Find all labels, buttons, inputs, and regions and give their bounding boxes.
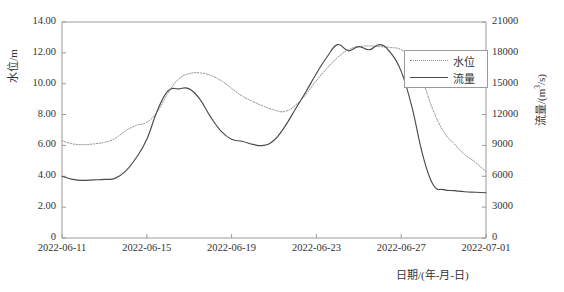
x-axis-tick-label: 2022-06-27 (356, 242, 446, 253)
x-axis-ticks (62, 234, 486, 238)
y-axis-left-tick-label: 10.00 (10, 77, 56, 88)
y-axis-left-tick-label: 0 (10, 231, 56, 242)
y-axis-right-tick-label: 15000 (492, 77, 542, 88)
legend-label-flow: 流量 (449, 70, 475, 86)
x-axis-tick-label: 2022-06-23 (271, 242, 361, 253)
legend-label-water-level: 水位 (449, 53, 475, 69)
legend-swatch-dotted (409, 57, 449, 65)
chart-legend: 水位 流量 (404, 50, 488, 88)
x-axis-tick-label: 2022-07-01 (441, 242, 531, 253)
y-axis-left-tick-label: 6.00 (10, 138, 56, 149)
legend-swatch-solid (409, 74, 449, 82)
y-axis-right-title: 流量/(m3/s) (532, 55, 548, 145)
legend-item-flow: 流量 (409, 70, 485, 86)
y-axis-left-tick-label: 14.00 (10, 15, 56, 26)
y-axis-right-tick-label: 0 (492, 231, 542, 242)
y-axis-left-tick-label: 12.00 (10, 46, 56, 57)
y-axis-right-tick-label: 9000 (492, 138, 542, 149)
x-axis-title: 日期/(年-月-日) (396, 266, 469, 282)
y-axis-left-ticks (62, 22, 66, 238)
y-axis-right-tick-label: 21000 (492, 15, 542, 26)
y-axis-right-tick-label: 3000 (492, 200, 542, 211)
y-axis-left-tick-label: 2.00 (10, 200, 56, 211)
y-axis-right-tick-label: 6000 (492, 169, 542, 180)
x-axis-tick-label: 2022-06-19 (187, 242, 277, 253)
x-axis-tick-label: 2022-06-11 (17, 242, 107, 253)
y-axis-left-tick-label: 8.00 (10, 108, 56, 119)
chart-figure: 水位/m 流量/(m3/s) 日期/(年-月-日) 02.004.006.008… (0, 0, 564, 292)
y-axis-right-tick-label: 18000 (492, 46, 542, 57)
legend-item-water-level: 水位 (409, 53, 485, 69)
x-axis-tick-label: 2022-06-15 (102, 242, 192, 253)
y-axis-left-tick-label: 4.00 (10, 169, 56, 180)
y-axis-right-tick-label: 12000 (492, 108, 542, 119)
